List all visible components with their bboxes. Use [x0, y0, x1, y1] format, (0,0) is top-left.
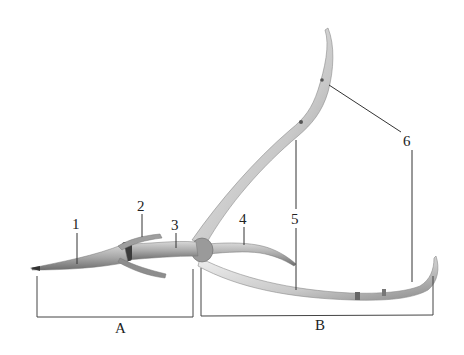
shaft-3-bone: [125, 241, 198, 260]
label-4: 4: [239, 211, 247, 227]
anatomical-figure: 1 2 3 4 5 6 A B: [0, 0, 464, 355]
bracket-b-label: B: [315, 317, 325, 333]
label-6: 6: [403, 133, 411, 149]
label-3: 3: [171, 217, 179, 233]
label-1: 1: [72, 216, 80, 232]
bracket-a: A: [37, 269, 193, 336]
bone-specimen: [30, 28, 438, 300]
fork-2-lower-bone: [118, 258, 166, 278]
bracket-a-label: A: [115, 320, 126, 336]
label-2: 2: [137, 198, 145, 214]
lower-arm-bone: [198, 256, 438, 300]
label-5: 5: [291, 211, 299, 227]
process-4-bone: [208, 243, 296, 266]
tip-1-bone: [32, 244, 128, 270]
upper-arm-bone: [192, 28, 333, 244]
